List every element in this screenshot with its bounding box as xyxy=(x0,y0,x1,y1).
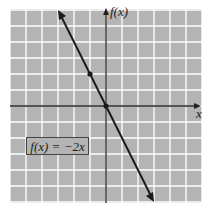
point-origin xyxy=(103,103,108,108)
graph-plot xyxy=(0,0,210,214)
y-axis-label: f(x) xyxy=(110,4,128,20)
point-neg1-2 xyxy=(87,71,92,76)
x-axis-label: x xyxy=(196,106,202,122)
equation-label: f(x) = −2x xyxy=(26,137,89,155)
